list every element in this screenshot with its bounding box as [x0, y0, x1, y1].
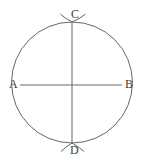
- point-label-b: B: [125, 78, 133, 90]
- geometry-diagram: A B C D: [0, 0, 145, 165]
- point-label-a: A: [9, 78, 18, 90]
- construction-svg: [0, 0, 145, 165]
- point-label-d: D: [70, 144, 79, 156]
- compass-arc-left: [12, 22, 72, 143]
- compass-arc-right: [72, 22, 132, 143]
- point-label-c: C: [71, 8, 79, 20]
